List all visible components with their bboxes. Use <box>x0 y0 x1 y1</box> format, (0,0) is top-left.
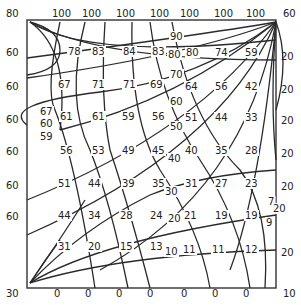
contour-value-label: 59 <box>40 131 53 142</box>
contour-value-label: 21 <box>184 210 197 221</box>
contour-value-label: 78 <box>68 46 81 57</box>
contour-value-label: 51 <box>185 112 198 123</box>
svg-text:100: 100 <box>214 8 233 19</box>
contour-value-label: 11 <box>183 244 196 255</box>
svg-text:0: 0 <box>116 288 122 299</box>
svg-text:100: 100 <box>246 8 265 19</box>
contour-value-label: 70 <box>170 69 183 80</box>
contour-value-label: 40 <box>168 153 181 164</box>
svg-text:0: 0 <box>147 288 153 299</box>
contour-value-label: 44 <box>215 112 228 123</box>
contour-value-label: 33 <box>245 112 258 123</box>
contour-value-label: 56 <box>215 81 228 92</box>
contour-value-label: 12 <box>245 244 258 255</box>
contour-value-label: 49 <box>122 145 135 156</box>
contour-value-label: 71 <box>92 79 105 90</box>
contour-value-label: 71 <box>123 79 136 90</box>
svg-text:100: 100 <box>150 8 169 19</box>
svg-text:60: 60 <box>6 211 19 222</box>
contour-value-label: 31 <box>185 178 198 189</box>
contour-value-label: 64 <box>185 81 198 92</box>
contour-value-label: 60 <box>170 96 183 107</box>
contour-value-label: 42 <box>245 81 258 92</box>
contour-value-label: 24 <box>150 210 163 221</box>
contour-value-label: 44 <box>88 178 101 189</box>
svg-text:100: 100 <box>116 8 135 19</box>
corner-bottom-left-label: 30 <box>6 288 19 299</box>
svg-text:20: 20 <box>281 115 294 126</box>
contour-value-label: 83 <box>92 46 105 57</box>
contour-value-label: 19 <box>245 210 258 221</box>
contour-value-label: 10 <box>165 246 178 257</box>
contour-value-label: 67 <box>40 106 53 117</box>
contour-value-label: 84 <box>123 46 136 57</box>
contour-value-label: 53 <box>92 145 105 156</box>
contour-value-label: 61 <box>60 111 73 122</box>
svg-text:100: 100 <box>82 8 101 19</box>
contour-value-label: 80 <box>186 47 199 58</box>
svg-text:0: 0 <box>181 288 187 299</box>
svg-text:20: 20 <box>281 148 294 159</box>
svg-text:60: 60 <box>6 81 19 92</box>
flow-net-diagram: 80 60 30 10 100 100 100 100 100 100 100 … <box>0 0 301 305</box>
right-boundary-labels: 20 20 20 20 20 20 <box>281 51 294 258</box>
contour-value-label: 19 <box>215 210 228 221</box>
contour-value-label: 35 <box>215 145 228 156</box>
contour-value-label: 31 <box>58 241 71 252</box>
contour-value-label: 59 <box>122 111 135 122</box>
left-boundary-labels: 60 60 60 60 60 60 <box>6 47 19 222</box>
svg-text:20: 20 <box>281 51 294 62</box>
contour-value-label: 51 <box>58 178 71 189</box>
contour-value-label: 30 <box>165 186 178 197</box>
svg-text:0: 0 <box>54 288 60 299</box>
contour-value-label: 61 <box>92 111 105 122</box>
svg-text:0: 0 <box>212 288 218 299</box>
contour-value-label: 45 <box>152 145 165 156</box>
contour-value-label: 56 <box>152 111 165 122</box>
svg-text:100: 100 <box>52 8 71 19</box>
contour-value-label: 60 <box>40 118 53 129</box>
svg-text:60: 60 <box>6 114 19 125</box>
contour-value-label: 50 <box>170 121 183 132</box>
contour-value-label: 80 <box>168 49 181 60</box>
contour-value-label: 34 <box>88 210 101 221</box>
contour-value-label: 39 <box>122 178 135 189</box>
contour-value-label: 20 <box>273 203 286 214</box>
contour-value-label: 20 <box>168 213 181 224</box>
corner-top-right-label: 60 <box>283 8 296 19</box>
svg-text:20: 20 <box>281 84 294 95</box>
contour-value-label: 56 <box>60 145 73 156</box>
svg-text:0: 0 <box>243 288 249 299</box>
contour-value-label: 90 <box>170 31 183 42</box>
svg-text:60: 60 <box>6 180 19 191</box>
contour-value-label: 35 <box>152 178 165 189</box>
svg-text:100: 100 <box>180 8 199 19</box>
corner-top-left-label: 80 <box>6 8 19 19</box>
svg-text:60: 60 <box>6 146 19 157</box>
contour-value-label: 44 <box>58 210 71 221</box>
svg-text:20: 20 <box>281 247 294 258</box>
contour-value-label: 59 <box>245 47 258 58</box>
interior-contour-labels: 7883848390808074596771716970645642676161… <box>39 31 287 257</box>
contour-value-label: 69 <box>150 79 163 90</box>
contour-value-label: 28 <box>120 210 133 221</box>
contour-value-label: 20 <box>88 241 101 252</box>
contour-value-label: 27 <box>215 178 228 189</box>
svg-text:0: 0 <box>85 288 91 299</box>
diagram-canvas: 80 60 30 10 100 100 100 100 100 100 100 … <box>0 0 301 305</box>
bottom-boundary-labels: 0 0 0 0 0 0 0 <box>54 288 249 299</box>
contour-value-label: 83 <box>152 46 165 57</box>
contour-value-label: 67 <box>58 79 71 90</box>
contour-value-label: 23 <box>245 178 258 189</box>
contour-value-label: 40 <box>185 145 198 156</box>
contour-value-label: 15 <box>120 241 133 252</box>
svg-text:20: 20 <box>281 181 294 192</box>
svg-text:60: 60 <box>6 47 19 58</box>
contour-value-label: 74 <box>215 47 228 58</box>
contour-value-label: 13 <box>150 241 163 252</box>
contour-value-label: 11 <box>212 244 225 255</box>
corner-bottom-right-label: 10 <box>283 288 296 299</box>
top-boundary-labels: 100 100 100 100 100 100 100 <box>52 8 265 19</box>
contour-value-label: 9 <box>266 217 272 228</box>
contour-value-label: 28 <box>245 145 258 156</box>
